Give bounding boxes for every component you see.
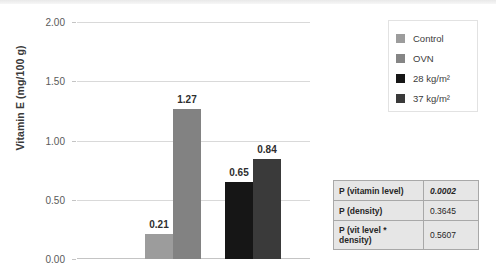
y-axis-tick-label: 1.50	[27, 76, 65, 87]
chart-legend: ControlOVN28 kg/m²37 kg/m²	[388, 20, 478, 112]
y-axis-title: Vitamin E (mg/100 g)	[14, 23, 26, 173]
y-axis-tick-mark	[72, 22, 76, 23]
p-value-cell: 0.0002	[424, 181, 479, 201]
bar-value-label: 0.84	[257, 144, 276, 155]
gridline	[77, 22, 310, 23]
p-value-label-cell: P (vit level * density)	[334, 221, 424, 250]
y-axis-tick-mark	[72, 81, 76, 82]
bar	[253, 159, 281, 259]
bar-value-label: 0.21	[149, 219, 168, 230]
p-value-label-cell: P (density)	[334, 201, 424, 221]
legend-swatch-icon	[396, 94, 405, 103]
p-value-cell: 0.3645	[424, 201, 479, 221]
legend-item-label: 37 kg/m²	[413, 93, 450, 104]
legend-swatch-icon	[396, 74, 405, 83]
y-axis-tick-mark	[72, 259, 76, 260]
legend-swatch-icon	[396, 54, 405, 63]
legend-item-label: Control	[413, 33, 444, 44]
legend-item[interactable]: Control	[396, 28, 477, 48]
p-value-table: P (vitamin level)0.0002P (density)0.3645…	[333, 180, 479, 250]
legend-swatch-icon	[396, 34, 405, 43]
bar	[145, 234, 173, 259]
bar-chart-figure: Vitamin E (mg/100 g) 0.000.501.001.502.0…	[0, 0, 330, 274]
gridline	[77, 81, 310, 82]
y-axis-tick-label: 0.50	[27, 194, 65, 205]
y-axis-tick-mark	[72, 200, 76, 201]
bar-value-label: 0.65	[229, 167, 248, 178]
p-value-label-cell: P (vitamin level)	[334, 181, 424, 201]
table-row: P (density)0.3645	[334, 201, 479, 221]
p-value-table-body: P (vitamin level)0.0002P (density)0.3645…	[334, 181, 479, 250]
y-axis-tick-label: 2.00	[27, 17, 65, 28]
y-axis-tick-label: 1.00	[27, 135, 65, 146]
table-row: P (vit level * density)0.5607	[334, 221, 479, 250]
legend-item[interactable]: OVN	[396, 48, 477, 68]
legend-item[interactable]: 37 kg/m²	[396, 88, 477, 108]
table-row: P (vitamin level)0.0002	[334, 181, 479, 201]
legend-item-label: OVN	[413, 53, 434, 64]
legend-item[interactable]: 28 kg/m²	[396, 68, 477, 88]
bar	[173, 109, 201, 259]
p-value-cell: 0.5607	[424, 221, 479, 250]
legend-item-label: 28 kg/m²	[413, 73, 450, 84]
bar-value-label: 1.27	[177, 94, 196, 105]
y-axis-tick-label: 0.00	[27, 254, 65, 265]
plot-area: 0.000.501.001.502.000.211.270.650.84	[77, 22, 310, 259]
y-axis-tick-mark	[72, 141, 76, 142]
bar	[225, 182, 253, 259]
